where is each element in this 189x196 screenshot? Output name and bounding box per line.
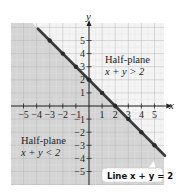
graph-canvas: −5−4−3−2−11234554321−1−2−3−4−5 y x Half-…	[0, 0, 189, 196]
line-point	[152, 143, 156, 147]
svg-text:−1: −1	[74, 114, 85, 125]
svg-text:−2: −2	[57, 109, 68, 120]
svg-text:2: 2	[113, 109, 118, 120]
svg-text:1: 1	[80, 87, 85, 98]
upper-half-plane-label: Half-plane x + y > 2	[104, 54, 150, 77]
svg-text:5: 5	[80, 35, 85, 46]
svg-text:−4: −4	[74, 153, 85, 164]
line-point	[87, 78, 91, 82]
svg-text:3: 3	[80, 61, 85, 72]
line-point	[113, 104, 117, 108]
lower-half-plane-label: Half-plane x + y < 2	[20, 135, 66, 158]
svg-text:−3: −3	[74, 140, 85, 151]
svg-text:−5: −5	[18, 109, 29, 120]
svg-text:−4: −4	[31, 109, 42, 120]
line-point	[100, 91, 104, 95]
line-point	[74, 65, 78, 69]
svg-text:Half-plane: Half-plane	[105, 54, 150, 65]
svg-text:−2: −2	[74, 127, 85, 138]
svg-text:4: 4	[80, 48, 85, 59]
svg-text:4: 4	[139, 109, 144, 120]
line-point	[61, 51, 65, 55]
svg-text:1: 1	[100, 109, 105, 120]
line-point	[139, 130, 143, 134]
callout-text: Line x + y = 2	[107, 171, 173, 181]
y-axis-label: y	[85, 10, 91, 22]
svg-text:5: 5	[152, 109, 157, 120]
svg-text:Half-plane: Half-plane	[21, 135, 66, 146]
svg-text:3: 3	[126, 109, 131, 120]
svg-text:−3: −3	[44, 109, 55, 120]
x-axis-label: x	[168, 99, 174, 111]
svg-text:x + y < 2: x + y < 2	[20, 147, 61, 158]
svg-text:−5: −5	[74, 166, 85, 177]
line-point	[48, 38, 52, 42]
svg-text:x + y > 2: x + y > 2	[104, 66, 145, 77]
svg-text:2: 2	[80, 74, 85, 85]
